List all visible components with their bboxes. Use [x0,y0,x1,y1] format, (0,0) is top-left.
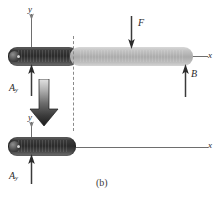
force-F-arrow [126,16,137,50]
force-B-label: B [191,69,197,79]
upper-y-axis-label: y [28,5,32,14]
force-B-arrow [180,64,191,97]
reaction-Ay-arrow-lower [26,154,37,184]
upper-pin-center-dot [17,55,20,58]
upper-beam-light-hatching [80,50,185,62]
reaction-Ay-subscript-lower: y [15,174,18,181]
figure-free-body-diagram: y x F B Ay [0,0,219,197]
lower-y-axis-label: y [28,113,32,122]
reaction-Ay-subscript-upper: y [15,86,18,93]
reaction-Ay-label-lower: Ay [9,171,18,182]
lower-x-axis-label: x [208,141,212,150]
figure-caption: (b) [96,178,108,188]
reaction-Ay-label-upper: Ay [9,83,18,94]
lower-x-axis-line [76,147,208,148]
lower-beam-hatching [18,140,68,152]
upper-x-axis-label: x [208,51,212,60]
upper-beam-dark-hatching [18,50,70,62]
dashed-reference-line [73,36,74,131]
upper-x-axis-line [193,56,208,57]
lower-pin-center-dot [17,145,20,148]
force-F-label: F [138,18,144,28]
